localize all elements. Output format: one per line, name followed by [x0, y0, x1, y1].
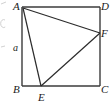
vertex-label-B: B	[13, 84, 20, 95]
side-length-label-a: a	[13, 43, 18, 53]
vertex-label-A: A	[13, 1, 20, 12]
vertex-label-F: F	[101, 28, 108, 39]
vertex-label-D: D	[101, 1, 109, 12]
vertex-label-C: C	[101, 84, 108, 95]
geometry-figure: A D F B C E a	[0, 0, 111, 107]
triangle-segment-AE	[23, 8, 41, 86]
triangle-segment-AF	[23, 8, 100, 33]
clipped-edge-marks	[1, 2, 6, 47]
triangle-segment-EF	[41, 33, 100, 86]
vertex-label-E: E	[38, 92, 45, 103]
